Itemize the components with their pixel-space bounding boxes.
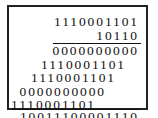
multiplicand: 1110001101	[54, 15, 139, 28]
multiplier: 10110	[96, 29, 139, 42]
partial-product-3: 1110001101	[31, 71, 116, 84]
binary-multiplication-box: 1110001101 10110 0000000000 1110001101 1…	[7, 5, 148, 110]
partial-product-1: 0000000000	[53, 44, 140, 57]
product-result: 10011100001110	[20, 110, 139, 118]
